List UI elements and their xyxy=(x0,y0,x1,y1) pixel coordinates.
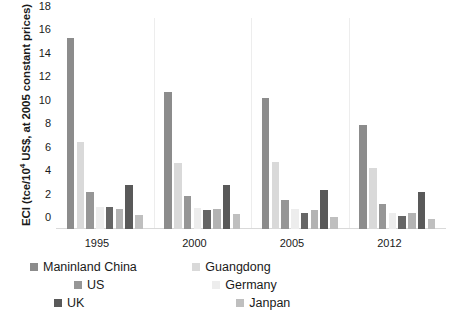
bar-group xyxy=(349,18,447,229)
bar[interactable] xyxy=(408,213,415,229)
bar[interactable] xyxy=(418,192,425,229)
bar[interactable] xyxy=(281,200,288,229)
legend-swatch-icon xyxy=(54,299,62,307)
legend-swatch-icon xyxy=(30,263,38,271)
bar[interactable] xyxy=(262,98,269,229)
legend-label: US xyxy=(87,278,104,292)
y-axis-tick-label: 10 xyxy=(39,94,51,106)
bar[interactable] xyxy=(311,210,318,229)
bar[interactable] xyxy=(116,209,123,230)
legend-swatch-icon xyxy=(74,281,82,289)
bar[interactable] xyxy=(233,214,240,229)
legend-item[interactable]: Maninland China xyxy=(30,258,168,276)
legend-label: Janpan xyxy=(249,296,290,310)
y-axis-tick-label: 12 xyxy=(39,70,51,82)
bar[interactable] xyxy=(125,185,132,229)
bar[interactable] xyxy=(398,216,405,229)
x-axis-tick-label: 2005 xyxy=(280,237,304,249)
bar[interactable] xyxy=(272,162,279,229)
x-axis-tick-label: 2012 xyxy=(377,237,401,249)
y-axis-tick-label: 6 xyxy=(45,141,51,153)
bar-group xyxy=(154,18,252,229)
y-axis-tick-label: 2 xyxy=(45,188,51,200)
legend-item[interactable]: Guangdong xyxy=(168,258,330,276)
bar[interactable] xyxy=(106,207,113,229)
legend-label: UK xyxy=(67,296,84,310)
bar[interactable] xyxy=(320,190,327,229)
x-axis-tick-label: 2000 xyxy=(182,237,206,249)
bar[interactable] xyxy=(369,168,376,229)
bar[interactable] xyxy=(359,125,366,229)
bar[interactable] xyxy=(213,209,220,230)
y-axis-tick-label: 8 xyxy=(45,117,51,129)
bar[interactable] xyxy=(203,210,210,229)
bar[interactable] xyxy=(330,217,337,229)
bar[interactable] xyxy=(194,208,201,229)
bar[interactable] xyxy=(428,219,435,229)
plot-area: 024681012141618 1995200020052012 xyxy=(56,18,446,229)
y-axis-title: ECI (tce/104 US$, at 2005 constant price… xyxy=(18,0,36,230)
y-axis-tick-label: 0 xyxy=(45,211,51,223)
legend-item[interactable]: US xyxy=(30,276,212,294)
legend-item[interactable]: Janpan xyxy=(192,294,374,312)
y-axis-tick-label: 14 xyxy=(39,47,51,59)
legend-label: Germany xyxy=(225,278,276,292)
chart-legend: Maninland ChinaGuangdongUSGermanyUKJanpa… xyxy=(30,258,445,312)
bar[interactable] xyxy=(389,213,396,229)
bar-group xyxy=(251,18,349,229)
bar[interactable] xyxy=(379,204,386,229)
y-axis-tick-label: 16 xyxy=(39,23,51,35)
y-axis-title-suffix: US$, at 2005 constant prices) xyxy=(20,4,32,164)
x-axis-tick-label: 1995 xyxy=(85,237,109,249)
y-axis-tick-label: 18 xyxy=(39,0,51,12)
bar[interactable] xyxy=(96,207,103,229)
bar[interactable] xyxy=(77,142,84,229)
bar[interactable] xyxy=(184,196,191,229)
bar-group xyxy=(56,18,154,229)
bar[interactable] xyxy=(291,209,298,230)
legend-label: Guangdong xyxy=(205,260,270,274)
legend-label: Maninland China xyxy=(43,260,137,274)
y-axis-title-prefix: ECI (tce/10 xyxy=(20,168,32,226)
bar[interactable] xyxy=(86,192,93,229)
bar[interactable] xyxy=(135,215,142,229)
bar[interactable] xyxy=(67,38,74,229)
y-axis-tick-label: 4 xyxy=(45,164,51,176)
bar[interactable] xyxy=(164,92,171,229)
y-axis-title-exponent: 4 xyxy=(18,164,27,168)
legend-item[interactable]: Germany xyxy=(212,276,350,294)
legend-swatch-icon xyxy=(192,263,200,271)
bar[interactable] xyxy=(223,185,230,229)
bar[interactable] xyxy=(301,213,308,229)
legend-item[interactable]: UK xyxy=(30,294,192,312)
bar[interactable] xyxy=(174,163,181,229)
legend-swatch-icon xyxy=(236,299,244,307)
legend-swatch-icon xyxy=(212,281,220,289)
